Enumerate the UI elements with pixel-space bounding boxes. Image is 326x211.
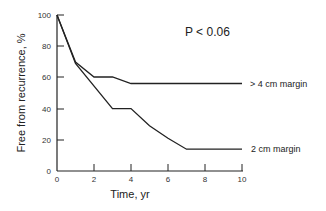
- x-ticks: 0 2 4 6 8 10: [55, 164, 247, 184]
- x-axis-title: Time, yr: [110, 188, 150, 200]
- p-value-annotation: P < 0.06: [185, 25, 230, 39]
- y-ticks: 100 80 60 40 20 0: [38, 11, 64, 176]
- x-tick-label: 8: [203, 175, 208, 184]
- y-tick-label: 0: [47, 167, 52, 176]
- y-tick-label: 100: [38, 11, 52, 20]
- survival-chart: 100 80 60 40 20 0 0 2 4 6 8 10 Time, yr …: [0, 0, 326, 211]
- y-tick-label: 40: [42, 105, 51, 114]
- x-tick-label: 0: [55, 175, 60, 184]
- y-tick-label: 60: [42, 73, 51, 82]
- series-label-4cm-margin: > 4 cm margin: [250, 79, 307, 89]
- x-tick-label: 10: [238, 175, 247, 184]
- x-tick-label: 6: [166, 175, 171, 184]
- x-tick-label: 2: [92, 175, 97, 184]
- y-tick-label: 80: [42, 42, 51, 51]
- series-label-2cm-margin: 2 cm margin: [251, 144, 301, 154]
- y-tick-label: 20: [42, 136, 51, 145]
- y-axis-title: Free from recurrence, %: [15, 33, 27, 152]
- x-tick-label: 4: [129, 175, 134, 184]
